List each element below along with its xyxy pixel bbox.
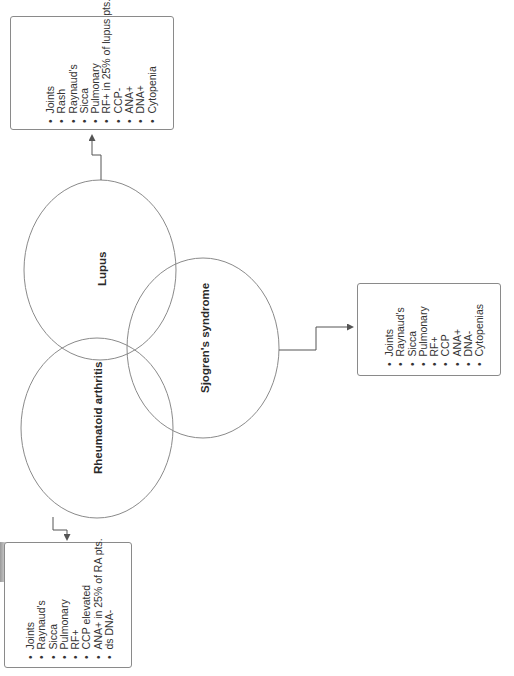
ra-connector bbox=[53, 517, 67, 539]
lupus-label: Lupus bbox=[96, 252, 108, 287]
list-item: DNA+ bbox=[135, 0, 146, 123]
list-item: ds DNA- bbox=[104, 538, 115, 659]
sjogren-list: Joints Raynaud's Sicca Pulmonary RF+ CCP… bbox=[384, 304, 486, 366]
list-item: Rash bbox=[56, 0, 67, 123]
ra-list: Joints Raynaud's Sicca Pulmonary RF+ CCP… bbox=[25, 538, 115, 659]
lupus-connector bbox=[92, 136, 101, 180]
list-item: Raynaud's bbox=[36, 538, 47, 659]
sjogren-box: Joints Raynaud's Sicca Pulmonary RF+ CCP… bbox=[357, 283, 501, 376]
lupus-list: Joints Rash Raynaud's Sicca Pulmonary RF… bbox=[45, 0, 158, 123]
ra-box: Joints Raynaud's Sicca Pulmonary RF+ CCP… bbox=[4, 542, 132, 668]
list-item: Raynaud's bbox=[395, 304, 406, 366]
lupus-box: Joints Rash Raynaud's Sicca Pulmonary RF… bbox=[10, 16, 174, 130]
sjogren-label: Sjogren's syndrome bbox=[199, 283, 211, 393]
ra-label: Rheumatoid arthritis bbox=[92, 362, 104, 474]
list-item: Cytopenia bbox=[147, 0, 158, 123]
sjogren-connector bbox=[279, 327, 352, 350]
list-item: Cytopenias bbox=[474, 304, 485, 366]
